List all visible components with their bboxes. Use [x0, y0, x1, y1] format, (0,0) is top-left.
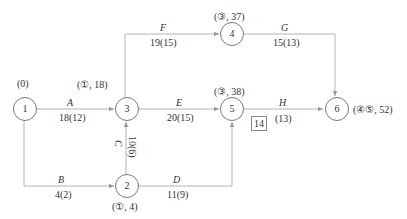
activity-F-duration: 19(15) — [150, 37, 177, 48]
node-1: 1 — [13, 97, 37, 121]
activity-A-name: A — [67, 97, 73, 108]
activity-G-duration: 15(13) — [273, 37, 300, 48]
activity-D-duration: 11(9) — [167, 189, 188, 200]
node-2-annotation: (①, 4) — [112, 201, 138, 212]
node-6-annotation: (④⑤, 52) — [353, 104, 393, 115]
activity-C-duration: 10(6) — [127, 136, 138, 158]
activity-B-duration: 4(2) — [55, 189, 72, 200]
node-5-annotation: (③, 38) — [214, 86, 245, 97]
node-3-annotation: (①, 18) — [77, 79, 108, 90]
activity-G-name: G — [281, 22, 288, 33]
edge-D — [138, 122, 232, 186]
node-3: 3 — [115, 97, 139, 121]
activity-E-duration: 20(15) — [167, 112, 194, 123]
node-4: 4 — [220, 22, 244, 46]
activity-F-name: F — [160, 22, 166, 33]
activity-H-duration: (13) — [275, 113, 292, 124]
node-2: 2 — [115, 174, 139, 198]
activity-H-boxed-value: 14 — [251, 116, 267, 131]
activity-E-name: E — [176, 97, 182, 108]
activity-A-duration: 18(12) — [59, 112, 86, 123]
activity-C-name: C — [113, 140, 124, 147]
node-5: 5 — [220, 97, 244, 121]
node-1-annotation: (0) — [17, 78, 29, 89]
activity-D-name: D — [173, 174, 180, 185]
node-4-annotation: (③, 37) — [214, 11, 245, 22]
activity-H-name: H — [279, 97, 286, 108]
edge-B — [24, 121, 114, 186]
node-6: 6 — [325, 97, 349, 121]
activity-B-name: B — [58, 174, 64, 185]
